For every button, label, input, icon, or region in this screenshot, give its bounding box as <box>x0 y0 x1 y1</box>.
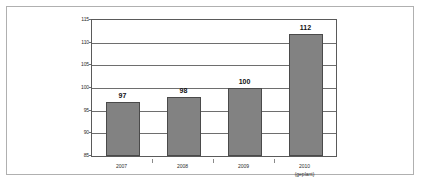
bar[interactable] <box>106 102 140 156</box>
y-axis-tick-label: 110 <box>67 39 89 44</box>
y-axis-tick-label: 95 <box>67 107 89 112</box>
bar[interactable] <box>228 88 262 156</box>
bar-value-label: 112 <box>300 24 311 31</box>
bar-slot: 97 <box>92 20 153 156</box>
y-axis-tick-label: 115 <box>67 17 89 22</box>
x-axis-category-sublabel: (geplant) <box>274 171 335 179</box>
y-axis-tick-label: 100 <box>67 85 89 90</box>
x-axis-tick-mark <box>274 159 275 163</box>
bar[interactable] <box>289 34 323 156</box>
x-axis-tick-mark <box>152 159 153 163</box>
x-axis-tick-label: 2010(geplant) <box>274 163 335 178</box>
x-axis-category: 2009 <box>238 163 249 169</box>
y-axis-tick-label: 90 <box>67 130 89 135</box>
bar-slot: 100 <box>214 20 275 156</box>
bar-slot: 112 <box>275 20 336 156</box>
x-axis-tick-label: 2008 <box>152 163 213 171</box>
y-axis-tick-label: 85 <box>67 153 89 158</box>
x-axis-tick-mark <box>213 159 214 163</box>
x-axis-tick-label: 2007 <box>91 163 152 171</box>
x-axis: 2007200820092010(geplant) <box>91 159 337 183</box>
x-axis-category: 2007 <box>116 163 127 169</box>
y-axis: 859095100105110115 <box>63 19 89 157</box>
plot-area: 9798100112 <box>91 19 337 157</box>
bar-value-label: 97 <box>119 92 127 99</box>
bar-value-label: 98 <box>180 87 188 94</box>
bar[interactable] <box>167 97 201 156</box>
bar-value-label: 100 <box>239 78 251 85</box>
y-axis-tick-label: 105 <box>67 62 89 67</box>
chart-frame: 859095100105110115 9798100112 2007200820… <box>6 6 414 175</box>
x-axis-category: 2008 <box>177 163 188 169</box>
bar-slot: 98 <box>153 20 214 156</box>
x-axis-tick-label: 2009 <box>213 163 274 171</box>
x-axis-category: 2010 <box>299 163 310 169</box>
